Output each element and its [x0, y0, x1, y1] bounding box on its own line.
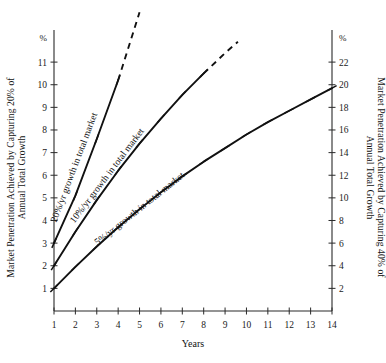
x-ticklabel: 13	[306, 320, 316, 330]
x-ticklabel: 1	[52, 320, 57, 330]
y-ticklabel-right: 20	[339, 80, 349, 90]
data-point-marker	[242, 132, 251, 137]
data-point-marker	[73, 227, 79, 236]
y-axis-right-title-line2: Annual Total Growth	[365, 136, 376, 220]
market-penetration-line-chart: 1234567891011%246810121416182022%1234567…	[0, 0, 386, 363]
y-ticklabel-right: 12	[339, 171, 349, 181]
data-point-marker	[116, 75, 120, 85]
data-point-marker	[157, 115, 164, 123]
y-ticklabel-left: 4	[42, 216, 47, 226]
data-point-marker	[306, 97, 315, 102]
x-ticklabel: 9	[223, 320, 228, 330]
data-point-marker	[200, 70, 207, 77]
y-ticklabel-left: 5	[42, 193, 47, 203]
data-point-marker	[73, 191, 77, 201]
y-ticklabel-left: 8	[42, 125, 47, 135]
y-ticklabel-left: 10	[38, 80, 48, 90]
chart-figure: 1234567891011%246810121416182022%1234567…	[0, 0, 386, 363]
data-point-marker	[179, 91, 186, 99]
series-line-dashed	[118, 12, 139, 80]
y-ticklabel-left: 11	[38, 58, 47, 68]
y-ticklabel-right: 14	[339, 148, 349, 158]
data-point-marker	[221, 145, 230, 151]
x-ticklabel: 12	[284, 320, 294, 330]
x-ticklabel: 5	[137, 320, 142, 330]
x-ticklabel: 4	[116, 320, 121, 330]
y-ticklabel-right: 8	[339, 216, 344, 226]
x-ticklabel: 6	[159, 320, 164, 330]
x-ticklabel: 3	[94, 320, 99, 330]
y-ticklabel-left: 1	[42, 284, 47, 294]
x-ticklabel: 8	[201, 320, 206, 330]
data-point-marker	[95, 134, 99, 144]
y-ticklabel-left: 3	[42, 239, 47, 249]
data-point-marker	[263, 120, 272, 125]
y-ticklabel-right: 4	[339, 261, 344, 271]
x-ticklabel: 14	[327, 320, 337, 330]
y-ticklabel-left: 6	[42, 171, 47, 181]
x-ticklabel: 7	[180, 320, 185, 330]
x-ticklabel: 2	[73, 320, 78, 330]
y-ticklabel-right: 2	[339, 284, 344, 294]
y-ticklabel-right: 10	[339, 193, 349, 203]
y-ticklabel-left: 9	[42, 103, 47, 113]
y-axis-left-title-line2: Annual Total Growth	[16, 136, 27, 220]
y-axis-left-title: Market Penetration Achieved by Capturing…	[5, 77, 16, 278]
y-ticklabel-right: 6	[339, 239, 344, 249]
y-axis-left-unit: %	[40, 33, 48, 43]
y-ticklabel-right: 16	[339, 125, 349, 135]
y-axis-right-title: Market Penetration Achieved by Capturing…	[376, 77, 386, 278]
y-axis-right-unit: %	[339, 33, 347, 43]
y-ticklabel-left: 2	[42, 261, 47, 271]
data-point-marker	[199, 159, 208, 165]
x-ticklabel: 11	[263, 320, 272, 330]
data-point-marker	[285, 108, 294, 113]
y-ticklabel-right: 22	[339, 58, 349, 68]
y-ticklabel-left: 7	[42, 148, 47, 158]
series-line-solid	[54, 80, 118, 243]
series-line-dashed	[204, 42, 238, 74]
x-ticklabel: 10	[242, 320, 252, 330]
y-ticklabel-right: 18	[339, 103, 349, 113]
x-axis-title: Years	[182, 338, 204, 349]
data-point-marker	[72, 263, 79, 270]
